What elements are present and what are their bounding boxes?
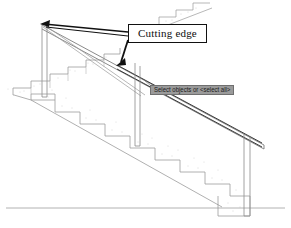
leader-to-handrail-mid: [116, 40, 128, 66]
command-tooltip[interactable]: Select objects or <select all>: [150, 85, 234, 95]
cad-drawing-canvas[interactable]: Cutting edge Select objects or <select a…: [0, 0, 291, 228]
upper-stair-hatch: [166, 8, 197, 22]
leader-to-handrail-top: [40, 20, 128, 36]
command-tooltip-label: Select objects or <select all>: [154, 87, 230, 93]
newel-post-left: [42, 24, 47, 97]
cutting-edge-callout-label: Cutting edge: [138, 28, 197, 39]
cutting-edge-callout[interactable]: Cutting edge: [128, 24, 207, 43]
newel-post-right: [244, 134, 250, 216]
concrete-hatch-pattern: [8, 57, 241, 212]
